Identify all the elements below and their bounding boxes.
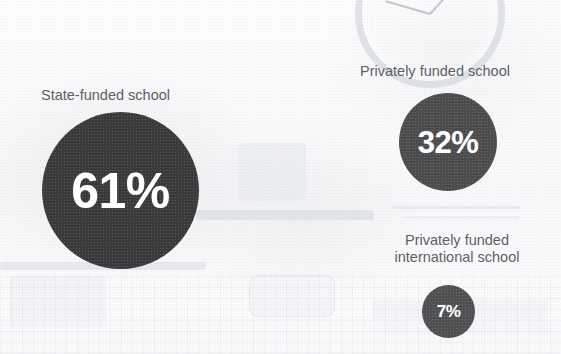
background-shape-line-a [392,206,520,209]
clock-hand-hour [429,0,453,15]
bubble-privately-funded: 32% [399,93,497,191]
bubble-value-state-funded: 61% [71,166,170,216]
bubble-chart-infographic: State-funded school 61% Privately funded… [0,0,561,354]
bubble-privately-funded-international: 7% [422,285,475,338]
bubble-label-state-funded: State-funded school [41,87,241,104]
bubble-value-privately-funded: 32% [418,127,479,158]
clock-hand-minute [386,0,431,15]
background-shape-shelf [196,210,374,220]
background-shape-line-b [402,216,520,219]
background-grid-texture [0,276,561,354]
background-shape-box [238,143,306,201]
bubble-state-funded: 61% [42,112,199,269]
bubble-label-privately-funded-international: Privately funded international school [369,232,545,266]
bubble-value-privately-funded-international: 7% [437,303,461,320]
bubble-label-privately-funded: Privately funded school [360,63,556,80]
